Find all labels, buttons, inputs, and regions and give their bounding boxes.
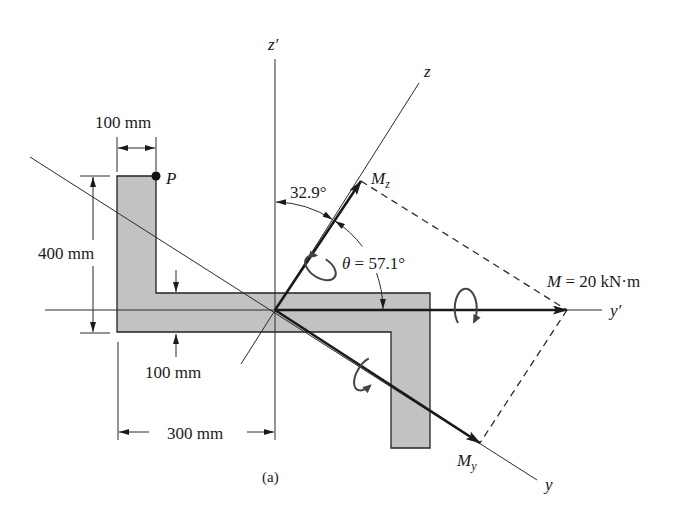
theta-value: = 57.1° (350, 254, 405, 273)
mz-label: Mz (370, 169, 390, 191)
resultant-moment-symbol: M (546, 272, 562, 291)
dim-height-label: 400 mm (38, 244, 94, 263)
dashed-component-line-upper (361, 181, 567, 310)
resultant-moment-value: = 20 kN·m (561, 272, 640, 291)
dashed-component-line-lower (480, 310, 567, 443)
angle-arc-32-9 (276, 202, 333, 220)
my-subscript: y (470, 459, 477, 473)
point-p-dot (152, 172, 161, 181)
mz-symbol: M (370, 169, 386, 188)
resultant-rotation-icon (455, 289, 477, 323)
z-axis-label: z (423, 62, 431, 81)
dim-thickness-label: 100 mm (145, 363, 201, 382)
z-section-moment-diagram: 100 mm P 400 mm 100 mm 300 mm (a) z′ z y… (0, 0, 698, 525)
angle-arc-theta-upper (335, 221, 362, 247)
theta-label: θ = 57.1° (342, 254, 405, 273)
angle-32-9-label: 32.9° (290, 183, 327, 202)
y-prime-axis-label: y′ (608, 301, 622, 320)
resultant-moment-label: M = 20 kN·m (546, 272, 640, 291)
dim-top-label: 100 mm (95, 113, 151, 132)
mz-subscript: z (384, 177, 390, 191)
theta-symbol: θ (342, 254, 350, 273)
point-p-label: P (165, 169, 176, 188)
dim-offset-label: 300 mm (167, 424, 223, 443)
z-prime-axis-label: z′ (267, 35, 279, 54)
y-axis-label: y (543, 475, 553, 494)
mz-rotation-icon (301, 250, 340, 285)
my-label: My (456, 451, 477, 473)
figure-caption: (a) (262, 469, 279, 486)
my-symbol: M (456, 451, 472, 470)
